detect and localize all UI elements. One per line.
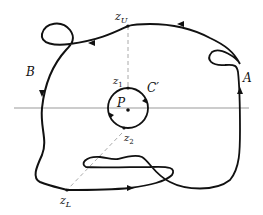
- contour-path-b: [36, 24, 128, 190]
- pole-point: [126, 108, 130, 112]
- arrow-bottom-right-icon: [127, 185, 134, 191]
- label-z2: z2: [123, 132, 134, 146]
- label-z-lower: zL: [59, 194, 71, 209]
- arrow-a-up-icon: [237, 87, 243, 94]
- z1-point: [126, 86, 129, 89]
- contour-svg: zU z1 z2 zL P C′ A B: [0, 0, 263, 215]
- contour-diagram: zU z1 z2 zL P C′ A B: [0, 0, 263, 215]
- label-z-upper: zU: [114, 10, 128, 25]
- z2-point: [122, 126, 125, 129]
- dashed-line-lower: [67, 133, 122, 190]
- label-z1: z1: [112, 75, 123, 89]
- label-c-prime: C′: [147, 81, 159, 95]
- contour-path-a: [67, 24, 240, 190]
- label-pole-p: P: [116, 96, 126, 110]
- label-b: B: [25, 65, 35, 79]
- label-a: A: [242, 71, 252, 85]
